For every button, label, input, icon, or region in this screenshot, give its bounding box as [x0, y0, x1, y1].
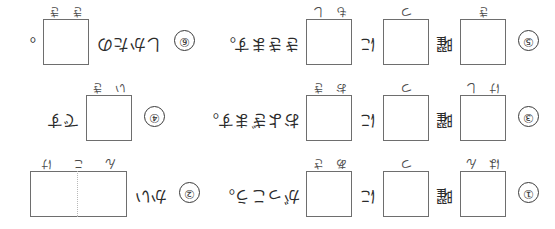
answer-cell[interactable]: つ [383, 95, 429, 141]
answer-cell[interactable]: お き [307, 95, 353, 141]
period-mark: 。 [20, 35, 37, 53]
particle-text: に [360, 187, 377, 205]
guide-kana-group: は ん [460, 157, 506, 170]
guide-kana: し [313, 5, 324, 18]
guide-kana: き [313, 81, 324, 94]
sentence-text: です [46, 111, 79, 129]
guide-kana-group: つ [383, 81, 429, 94]
answer-cell[interactable]: つ [383, 171, 429, 217]
kanji-prompt: 曜 [436, 111, 453, 129]
answer-box[interactable] [307, 171, 353, 217]
answer-box[interactable] [86, 95, 132, 141]
answer-box[interactable] [43, 19, 89, 65]
guide-kana: し [466, 81, 477, 94]
answer-box[interactable] [460, 171, 506, 217]
guide-kana: い [115, 81, 126, 94]
worksheet-row-4: ④ い き です [46, 95, 165, 147]
guide-kana: は [489, 157, 500, 170]
answer-cell[interactable]: は ん [460, 171, 506, 217]
guide-kana-group: つ [383, 157, 429, 170]
answer-box[interactable] [383, 95, 429, 141]
guide-kana: き [92, 81, 103, 94]
answer-box[interactable] [460, 19, 506, 65]
answer-cell[interactable]: け し [460, 95, 506, 141]
row-number-2: ② [179, 182, 200, 203]
guide-kana-group: き き [43, 5, 89, 18]
answer-cell[interactable]: も し [307, 19, 353, 65]
worksheet-sheet: ① は ん 曜 つ に あ さ がっこ [0, 0, 555, 229]
answer-box[interactable] [383, 19, 429, 65]
answer-box[interactable] [307, 95, 353, 141]
guide-kana-group: つ [383, 5, 429, 18]
sentence-text: かい [134, 187, 167, 205]
guide-kana: あ [336, 157, 347, 170]
worksheet-row-3: ③ け し 曜 つ に お き およぎ [203, 95, 540, 147]
sentence-text: およぎます。 [203, 111, 300, 129]
particle-text: に [360, 111, 377, 129]
guide-kana: つ [401, 5, 412, 18]
guide-kana: も [336, 5, 347, 18]
answer-cell[interactable]: つ [383, 19, 429, 65]
kanji-prompt: 曜 [436, 35, 453, 53]
guide-kana-group: お き [307, 81, 353, 94]
guide-kana: き [49, 5, 60, 18]
guide-kana: け [489, 81, 500, 94]
answer-box[interactable] [307, 19, 353, 65]
answer-cell[interactable]: い き [86, 95, 132, 141]
row-number-4: ④ [144, 106, 165, 127]
guide-kana-group: き [460, 5, 506, 18]
guide-kana: お [336, 81, 347, 94]
guide-kana: き [478, 5, 489, 18]
answer-cell[interactable]: あ さ [307, 171, 353, 217]
answer-box[interactable] [383, 171, 429, 217]
guide-kana: け [41, 157, 52, 170]
guide-kana: さ [313, 157, 324, 170]
row-number-1: ① [518, 182, 539, 203]
worksheet-row-6: ⑥ しかたの き き 。 [20, 19, 196, 71]
guide-kana-group: ん こ け [30, 157, 127, 170]
answer-box[interactable] [460, 95, 506, 141]
guide-kana: ん [105, 157, 116, 170]
guide-kana-group: も し [307, 5, 353, 18]
answer-box-wide[interactable] [30, 171, 127, 217]
guide-kana-group: け し [460, 81, 506, 94]
kanji-prompt: 曜 [436, 187, 453, 205]
sentence-text: がっこう。 [218, 187, 300, 205]
row-number-3: ③ [518, 106, 539, 127]
sentence-text: ききます。 [219, 35, 300, 53]
guide-kana: ん [466, 157, 477, 170]
answer-cell[interactable]: き き [43, 19, 89, 65]
sentence-text: しかたの [96, 35, 162, 53]
worksheet-row-1: ① は ん 曜 つ に あ さ がっこ [218, 171, 539, 223]
row-number-5: ⑤ [518, 30, 539, 51]
row-number-6: ⑥ [174, 30, 195, 51]
guide-kana-group: い き [86, 81, 132, 94]
guide-kana: こ [73, 157, 84, 170]
answer-cell[interactable]: き [460, 19, 506, 65]
guide-kana: つ [401, 81, 412, 94]
worksheet-row-2: ② かい ん こ け [30, 171, 200, 223]
guide-kana-group: あ さ [307, 157, 353, 170]
guide-kana: つ [401, 157, 412, 170]
particle-text: に [360, 35, 377, 53]
worksheet-row-5: ⑤ き 曜 つ に も し ききます。 [219, 19, 539, 71]
answer-cell[interactable]: ん こ け [30, 171, 127, 217]
guide-kana: き [72, 5, 83, 18]
